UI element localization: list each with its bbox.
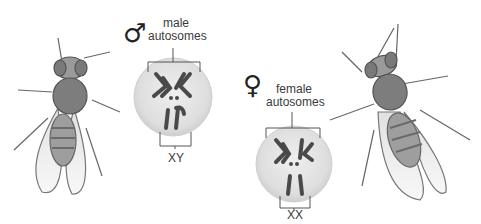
male-fly-illustration	[14, 38, 120, 194]
diagram-canvas	[0, 0, 481, 224]
female-label-line2: autosomes	[266, 96, 322, 109]
male-symbol-icon: ♂	[123, 20, 146, 46]
female-sex-chromosomes-label: XX	[279, 209, 311, 222]
female-symbol-icon: ♀	[243, 72, 262, 98]
male-sex-chromosomes-label: XY	[160, 152, 192, 165]
female-nucleus	[256, 126, 332, 202]
male-label-line2: autosomes	[148, 30, 204, 43]
male-label: male autosomes	[148, 17, 204, 43]
female-fly-illustration	[330, 24, 470, 200]
female-label: female autosomes	[266, 83, 322, 109]
